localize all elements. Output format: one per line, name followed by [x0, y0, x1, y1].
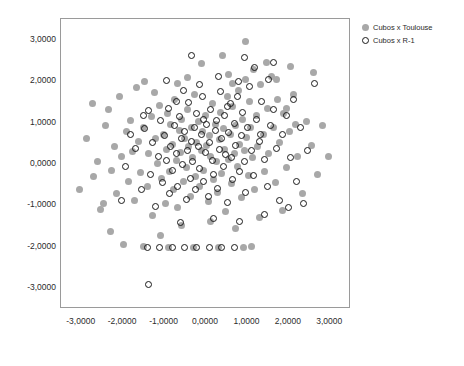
data-point — [300, 200, 307, 207]
data-point — [265, 76, 272, 83]
legend-label: Cubos x Toulouse — [373, 23, 432, 33]
data-point — [263, 59, 270, 66]
data-point — [286, 128, 293, 135]
data-point — [156, 244, 163, 251]
data-point — [188, 138, 195, 145]
data-point — [219, 52, 226, 59]
data-point — [137, 169, 144, 176]
x-axis-tick-labels: -3,0000-2,0000-1,00000,00001,00002,00003… — [60, 316, 350, 332]
data-point — [246, 98, 253, 105]
data-point — [191, 91, 198, 98]
data-point — [258, 98, 265, 105]
data-point — [210, 171, 217, 178]
data-point — [167, 143, 174, 150]
data-points-layer — [61, 19, 349, 307]
data-point — [144, 244, 151, 251]
data-point — [220, 163, 227, 170]
data-point — [111, 143, 118, 150]
data-point — [213, 117, 220, 124]
data-point — [246, 83, 253, 90]
data-point — [214, 185, 221, 192]
data-point — [304, 147, 311, 154]
data-point — [209, 157, 216, 164]
data-point — [94, 158, 101, 165]
plot-area — [60, 18, 350, 308]
data-point — [297, 124, 304, 131]
data-point — [191, 124, 198, 131]
legend-marker-icon — [362, 24, 369, 31]
data-point — [251, 186, 258, 193]
data-point — [200, 178, 207, 185]
data-point — [156, 102, 163, 109]
data-point — [294, 153, 301, 160]
data-point — [234, 93, 241, 100]
data-point — [261, 168, 268, 175]
data-point — [145, 150, 152, 157]
data-point — [256, 138, 263, 145]
data-point — [131, 197, 138, 204]
y-tick-label: 0,0000 — [4, 158, 56, 168]
data-point — [90, 173, 97, 180]
legend-item: Cubos x Toulouse — [362, 22, 462, 33]
data-point — [319, 122, 326, 129]
data-point — [192, 186, 199, 193]
data-point — [241, 54, 248, 61]
data-point — [299, 190, 306, 197]
data-point — [205, 193, 212, 200]
data-point — [102, 122, 109, 129]
data-point — [181, 244, 188, 251]
data-point — [242, 189, 249, 196]
data-point — [235, 78, 242, 85]
data-point — [108, 167, 115, 174]
data-point — [287, 154, 294, 161]
data-point — [149, 212, 156, 219]
data-point — [145, 281, 152, 288]
data-point — [184, 106, 191, 113]
data-point — [174, 80, 181, 87]
data-point — [133, 84, 140, 91]
data-point — [97, 206, 104, 213]
data-point — [241, 158, 248, 165]
data-point — [184, 147, 191, 154]
data-point — [217, 88, 224, 95]
data-point — [272, 179, 279, 186]
data-point — [159, 179, 166, 186]
data-point — [173, 98, 180, 105]
data-point — [261, 156, 268, 163]
data-point — [285, 204, 292, 211]
data-point — [224, 93, 231, 100]
data-point — [187, 175, 194, 182]
data-point — [276, 197, 283, 204]
data-point — [264, 183, 271, 190]
data-point — [270, 59, 277, 66]
data-point — [152, 203, 159, 210]
data-point — [215, 73, 222, 80]
data-point — [210, 215, 217, 222]
data-point — [196, 81, 203, 88]
data-point — [257, 81, 264, 88]
data-point — [229, 176, 236, 183]
legend-marker-icon — [362, 37, 369, 44]
data-point — [310, 69, 317, 76]
data-point — [127, 117, 134, 124]
y-axis-tick-labels: 3,00002,00001,00000,0000-1,0000-2,0000-3… — [0, 18, 56, 308]
data-point — [287, 63, 294, 70]
data-point — [274, 96, 281, 103]
y-tick-label: -1,0000 — [4, 199, 56, 209]
data-point — [188, 52, 195, 59]
data-point — [132, 145, 139, 152]
data-point — [89, 100, 96, 107]
data-point — [325, 153, 332, 160]
data-point — [199, 93, 206, 100]
data-point — [236, 218, 243, 225]
data-point — [157, 232, 164, 239]
data-point — [293, 178, 300, 185]
x-tick-label: 3,0000 — [299, 316, 359, 326]
data-point — [107, 228, 114, 235]
data-point — [242, 76, 249, 83]
data-point — [166, 190, 173, 197]
data-point — [207, 106, 214, 113]
data-point — [242, 38, 249, 45]
data-point — [180, 178, 187, 185]
data-point — [198, 131, 205, 138]
